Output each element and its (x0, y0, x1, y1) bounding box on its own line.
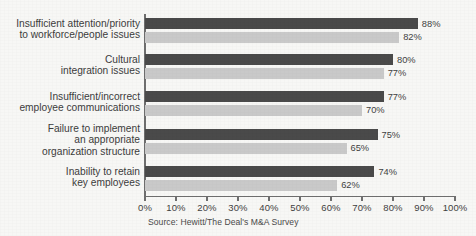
x-tick-label: 90% (414, 202, 433, 213)
bar-series-dark (145, 54, 393, 65)
category-label-line: Inability to retain (66, 166, 140, 178)
bar-series-light (145, 68, 384, 79)
x-tick-label: 60% (321, 202, 340, 213)
x-tick-label: 50% (290, 202, 309, 213)
x-tick-label: 80% (383, 202, 402, 213)
x-tick-mark (392, 196, 393, 201)
bar-value-label: 74% (378, 167, 397, 178)
x-tick-mark (175, 196, 176, 201)
x-tick-label: 70% (352, 202, 371, 213)
category-label-line: key employees (66, 177, 140, 189)
category-label-line: integration issues (61, 65, 140, 77)
bar-chart-figure: 0%10%20%30%40%50%60%70%80%90%100% Insuff… (0, 0, 476, 236)
bar-series-dark (145, 129, 378, 140)
x-tick-mark (330, 196, 331, 201)
x-tick-mark (423, 196, 424, 201)
category-label-line: Insufficient attention/priority (16, 18, 140, 30)
bar-series-light (145, 32, 399, 43)
category-label: Failure to implementan appropriateorgani… (42, 123, 140, 158)
bar-series-light (145, 105, 362, 116)
category-label-line: Cultural (61, 54, 140, 66)
category-label-line: organization structure (42, 146, 140, 158)
x-tick-label: 30% (228, 202, 247, 213)
bar-value-label: 77% (388, 92, 407, 103)
category-label-line: to workforce/people issues (16, 29, 140, 41)
bar-value-label: 80% (397, 55, 416, 66)
x-tick-mark (454, 196, 455, 201)
category-label-line: Insufficient/incorrect (19, 91, 140, 103)
category-label-line: Failure to implement (42, 123, 140, 135)
category-label-line: an appropriate (42, 134, 140, 146)
category-label: Insufficient/incorrectemployee communica… (19, 91, 140, 114)
x-tick-label: 10% (166, 202, 185, 213)
x-tick-label: 40% (259, 202, 278, 213)
bar-series-dark (145, 166, 374, 177)
x-tick-label: 100% (443, 202, 468, 213)
bar-value-label: 62% (341, 180, 360, 191)
category-label-line: employee communications (19, 102, 140, 114)
x-tick-label: 0% (138, 202, 152, 213)
category-label: Culturalintegration issues (61, 54, 140, 77)
source-note: Source: Hewitt/The Deal's M&A Survey (148, 217, 299, 227)
bar-series-light (145, 180, 337, 191)
x-tick-label: 20% (197, 202, 216, 213)
plot-area: 0%10%20%30%40%50%60%70%80%90%100% Insuff… (0, 0, 476, 236)
bar-value-label: 75% (382, 130, 401, 141)
category-label: Inability to retainkey employees (66, 166, 140, 189)
bar-value-label: 88% (422, 19, 441, 30)
bar-series-light (145, 143, 347, 154)
bar-value-label: 70% (366, 105, 385, 116)
bar-series-dark (145, 91, 384, 102)
x-tick-mark (299, 196, 300, 201)
bar-value-label: 65% (351, 143, 370, 154)
bar-series-dark (145, 18, 418, 29)
bar-value-label: 77% (388, 68, 407, 79)
x-tick-mark (361, 196, 362, 201)
bar-value-label: 82% (403, 32, 422, 43)
category-label: Insufficient attention/priorityto workfo… (16, 18, 140, 41)
x-tick-mark (268, 196, 269, 201)
x-tick-mark (144, 196, 145, 201)
x-tick-mark (206, 196, 207, 201)
x-tick-mark (237, 196, 238, 201)
